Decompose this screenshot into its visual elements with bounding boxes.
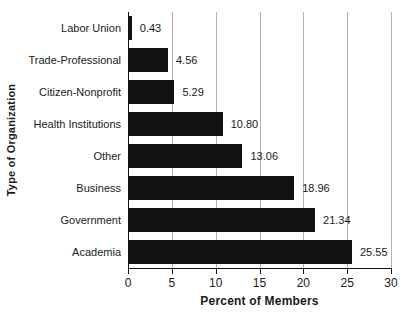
category-label: Government [0,208,121,232]
bar [128,176,294,200]
bar-chart: Type of Organization 0.434.565.2910.8013… [0,0,411,320]
tick-mark [391,269,392,274]
category-label: Trade-Professional [0,48,121,72]
tick-label: 30 [376,276,406,290]
category-label: Health Institutions [0,112,121,136]
value-label: 5.29 [182,80,203,104]
category-label: Business [0,176,121,200]
tick-label: 25 [332,276,362,290]
bar [128,208,315,232]
tick-label: 15 [245,276,275,290]
bar [128,144,242,168]
tick-mark [260,269,261,274]
tick-mark [347,269,348,274]
plot-area: 0.434.565.2910.8013.0618.9621.3425.55 [128,12,391,268]
value-label: 25.55 [360,240,388,264]
category-label: Labor Union [0,16,121,40]
value-label: 13.06 [250,144,278,168]
value-label: 4.56 [176,48,197,72]
value-label: 10.80 [231,112,259,136]
bar [128,240,352,264]
bar [128,112,223,136]
category-label: Academia [0,240,121,264]
tick-label: 5 [157,276,187,290]
tick-mark [216,269,217,274]
category-label: Other [0,144,121,168]
tick-label: 20 [288,276,318,290]
x-axis-title: Percent of Members [128,294,391,308]
tick-mark [172,269,173,274]
bar [128,48,168,72]
tick-label: 0 [113,276,143,290]
category-label: Citizen-Nonprofit [0,80,121,104]
value-label: 18.96 [302,176,330,200]
tick-mark [128,269,129,274]
value-label: 0.43 [140,16,161,40]
bar [128,80,174,104]
tick-label: 10 [201,276,231,290]
bar [128,16,132,40]
tick-mark [303,269,304,274]
value-label: 21.34 [323,208,351,232]
gridline [391,12,392,268]
